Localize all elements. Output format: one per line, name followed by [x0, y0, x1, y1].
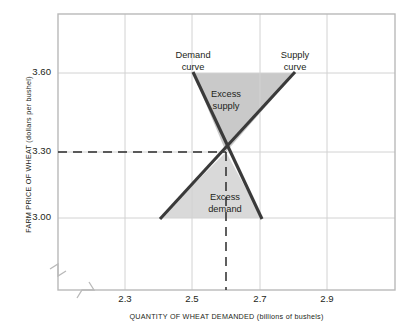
y-tick-label-3-00: 3.00 [17, 211, 51, 222]
excess-demand-label-line1: Excess [190, 192, 260, 204]
y-tick-label-3-60: 3.60 [17, 66, 51, 77]
excess-demand-label: Excess demand [190, 192, 260, 215]
excess-supply-label-line2: supply [196, 101, 256, 113]
x-tick-label-2-9: 2.9 [307, 293, 347, 304]
x-tick-label-2-7: 2.7 [240, 293, 280, 304]
x-tick-label-2-5: 2.5 [172, 293, 212, 304]
y-axis-break-mark [50, 264, 66, 276]
supply-curve-label-line2: curve [264, 62, 326, 74]
supply-curve-label-line1: Supply [264, 50, 326, 62]
excess-supply-label-line1: Excess [196, 89, 256, 101]
supply-demand-chart-figure: FARM PRICE OF WHEAT (dollars per bushel)… [0, 0, 405, 328]
excess-supply-region [193, 73, 295, 152]
demand-curve-label: Demand curve [157, 50, 229, 73]
y-tick-label-3-30: 3.30 [17, 145, 51, 156]
demand-curve-label-line2: curve [157, 62, 229, 74]
excess-demand-label-line2: demand [190, 204, 260, 216]
supply-curve-label: Supply curve [264, 50, 326, 73]
excess-supply-label: Excess supply [196, 89, 256, 112]
x-tick-label-2-3: 2.3 [105, 293, 145, 304]
demand-curve-label-line1: Demand [157, 50, 229, 62]
x-axis-title: QUANTITY OF WHEAT DEMANDED (billions of … [58, 312, 395, 321]
